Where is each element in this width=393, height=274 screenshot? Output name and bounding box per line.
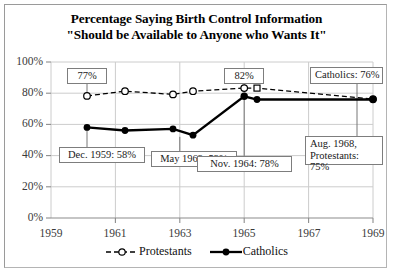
data-point-catholics xyxy=(254,96,261,103)
legend-item-catholics[interactable]: Catholics xyxy=(209,243,288,259)
data-point-protestants xyxy=(190,88,197,95)
annotation-catholic-dec-1959: Dec. 1959: 58% xyxy=(59,147,145,163)
y-tick-label-100: 100% xyxy=(5,55,43,67)
annotation-protestant-1965: 82% xyxy=(224,68,264,84)
x-tick-label-1965: 1965 xyxy=(214,227,274,239)
annotation-catholic-nov-1964: Nov. 1964: 78% xyxy=(197,156,292,172)
data-point-protestants xyxy=(84,93,91,100)
data-point-protestants xyxy=(241,85,248,92)
legend-label-catholics: Catholics xyxy=(243,244,288,259)
chart-container: Percentage Saying Birth Control Informat… xyxy=(4,4,387,268)
data-point-protestants xyxy=(170,91,177,98)
data-point-catholics xyxy=(241,93,248,100)
x-tick-label-1967: 1967 xyxy=(279,227,339,239)
y-tick-label-20: 20% xyxy=(5,180,43,192)
x-tick-label-1969: 1969 xyxy=(343,227,393,239)
y-tick-label-80: 80% xyxy=(5,86,43,98)
chart-legend: Protestants Catholics xyxy=(5,243,388,259)
data-point-catholics xyxy=(190,132,197,139)
data-point-protestants xyxy=(254,85,260,91)
y-tick-label-60: 60% xyxy=(5,117,43,129)
legend-label-protestants: Protestants xyxy=(139,244,192,259)
x-tick-label-1959: 1959 xyxy=(21,227,81,239)
data-point-catholics xyxy=(369,96,376,103)
legend-item-protestants[interactable]: Protestants xyxy=(105,243,192,259)
y-tick-label-0: 0% xyxy=(5,211,43,223)
legend-marker-open-circle-icon xyxy=(105,246,139,258)
series-catholics xyxy=(84,93,377,139)
data-point-catholics xyxy=(122,127,129,134)
data-point-catholics xyxy=(170,126,177,133)
annotation-catholic-1969: Catholics: 76% xyxy=(310,67,383,84)
legend-marker-filled-circle-icon xyxy=(209,246,243,258)
x-tick-label-1961: 1961 xyxy=(85,227,145,239)
x-tick-label-1963: 1963 xyxy=(150,227,210,239)
data-point-catholics xyxy=(84,124,91,131)
y-tick-label-40: 40% xyxy=(5,148,43,160)
annotation-protestant-aug-1968: Aug. 1968, Protestants: 75% xyxy=(305,136,383,165)
data-point-protestants xyxy=(122,88,129,95)
annotation-protestant-1960: 77% xyxy=(67,68,107,84)
